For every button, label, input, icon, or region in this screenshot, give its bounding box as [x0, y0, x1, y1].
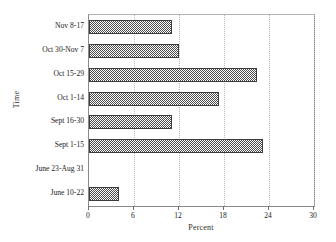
x-axis-tick-mark [178, 206, 179, 210]
y-axis-tick-label: Sept 1-15 [18, 141, 84, 149]
bar [89, 115, 172, 129]
x-axis-tick-mark [313, 206, 314, 210]
bar [89, 68, 257, 82]
horizontal-bar-chart: Time June 10-22June 23-Aug 31Sept 1-15Se… [0, 0, 336, 242]
bars-layer [89, 15, 314, 206]
x-axis-tick-mark [268, 206, 269, 210]
x-axis-tick-label: 0 [86, 211, 90, 221]
bar [89, 20, 172, 34]
x-axis-tick-mark [223, 206, 224, 210]
y-axis-tick-label: Oct 15-29 [18, 70, 84, 78]
y-axis-tick-label: Oct 1-14 [18, 94, 84, 102]
x-axis-tick-label: 24 [264, 211, 272, 221]
x-axis-tick-labels: 0612182430 [88, 211, 314, 223]
y-axis-tick-label: Oct 30-Nov 7 [18, 46, 84, 54]
x-axis-tick-label: 18 [219, 211, 227, 221]
y-axis-tick-label: June 10-22 [18, 189, 84, 197]
y-axis-tick-label: Sept 16-30 [18, 117, 84, 125]
gridline [314, 15, 315, 206]
bar [89, 139, 263, 153]
y-axis-tick-label: Nov 8-17 [18, 22, 84, 30]
plot-area [88, 14, 315, 207]
x-axis-tick-mark [88, 206, 89, 210]
x-axis-tick-label: 6 [131, 211, 135, 221]
x-axis-tick-label: 30 [309, 211, 317, 221]
y-axis-tick-labels: June 10-22June 23-Aug 31Sept 1-15Sept 16… [18, 14, 84, 205]
x-axis-tick-label: 12 [174, 211, 182, 221]
y-axis-tick-label: June 23-Aug 31 [18, 165, 84, 173]
x-axis-tick-mark [133, 206, 134, 210]
bar [89, 187, 119, 201]
bar [89, 44, 179, 58]
x-axis-title: Percent [88, 223, 314, 232]
bar [89, 92, 219, 106]
